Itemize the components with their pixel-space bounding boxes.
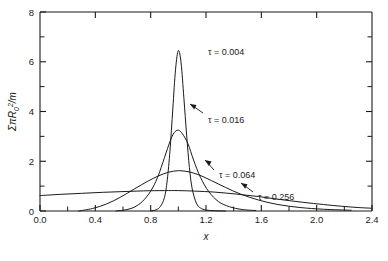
y-title-R: R bbox=[7, 111, 18, 118]
y-tick-label: 2 bbox=[29, 156, 34, 167]
curve-tau-0p064 bbox=[79, 171, 352, 211]
leader-arrow-0p064 bbox=[205, 160, 212, 166]
y-axis-title: ΣπR02/m bbox=[7, 92, 20, 132]
y-tick-labels: 0 2 4 6 8 bbox=[29, 7, 34, 217]
y-title-slash-m: /m bbox=[7, 92, 18, 104]
x-tick-label: 0.0 bbox=[33, 214, 46, 225]
y-axis-right-ticks bbox=[366, 37, 372, 186]
annotation-tau-0p256: τ = 0.256 bbox=[258, 192, 294, 202]
y-tick-label: 6 bbox=[29, 56, 34, 67]
y-title-R-sub: 0 bbox=[13, 107, 20, 111]
annotation-labels: τ = 0.004 τ = 0.016 τ = 0.064 τ = 0.256 bbox=[208, 47, 294, 202]
y-tick-label: 8 bbox=[29, 7, 34, 18]
svg-text:ΣπR02/m: ΣπR02/m bbox=[7, 92, 20, 132]
x-tick-label: 0.8 bbox=[144, 214, 157, 225]
annotation-tau-0p004: τ = 0.004 bbox=[208, 47, 244, 57]
annotation-tau-0p064: τ = 0.064 bbox=[219, 170, 255, 180]
chart-figure: 0 2 4 6 8 0.0 0.4 0.8 1.2 1.6 2.0 2.4 x … bbox=[0, 0, 388, 261]
leader-arrow-0p016 bbox=[190, 104, 197, 110]
annotation-tau-0p016: τ = 0.016 bbox=[208, 115, 244, 125]
x-tick-label: 1.6 bbox=[255, 214, 268, 225]
plot-frame bbox=[40, 12, 372, 211]
x-tick-label: 2.0 bbox=[310, 214, 323, 225]
chart-svg: 0 2 4 6 8 0.0 0.4 0.8 1.2 1.6 2.0 2.4 x … bbox=[0, 0, 388, 261]
x-tick-label: 2.4 bbox=[365, 214, 378, 225]
x-tick-label: 1.2 bbox=[199, 214, 212, 225]
y-axis-major-ticks bbox=[40, 12, 46, 211]
y-tick-label: 4 bbox=[29, 106, 34, 117]
leader-arrow-0p256 bbox=[241, 183, 248, 189]
x-tick-labels: 0.0 0.4 0.8 1.2 1.6 2.0 2.4 bbox=[33, 214, 378, 225]
curve-tau-0p004 bbox=[151, 50, 226, 211]
x-axis-top-ticks bbox=[95, 12, 316, 18]
x-axis-title: x bbox=[203, 231, 210, 242]
x-tick-label: 0.4 bbox=[89, 214, 102, 225]
curve-group bbox=[40, 50, 372, 211]
